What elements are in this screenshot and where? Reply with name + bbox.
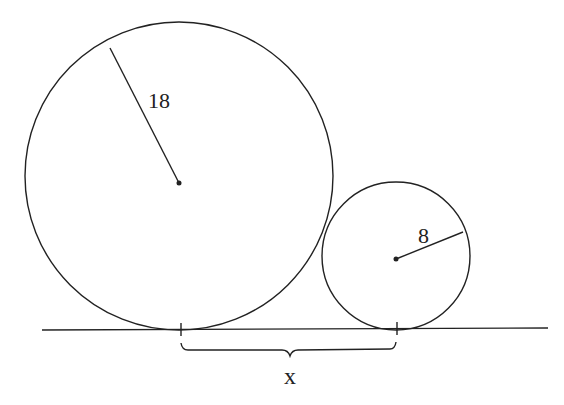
small-radius-label: 8 [418, 223, 429, 248]
large-radius-label: 18 [148, 88, 170, 113]
distance-label: x [284, 363, 296, 389]
large-circle [25, 22, 333, 330]
distance-brace [181, 342, 396, 356]
small-circle-radius [396, 232, 463, 259]
small-circle-center [394, 257, 399, 262]
tangent-line [42, 328, 548, 330]
large-circle-radius [110, 48, 179, 183]
small-circle [322, 182, 470, 330]
geometry-diagram: 18 8 x [0, 0, 564, 405]
large-circle-center [177, 181, 182, 186]
